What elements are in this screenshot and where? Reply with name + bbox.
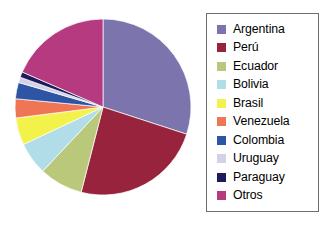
legend-item[interactable]: Uruguay [207,150,318,168]
legend-item-label: Argentina [233,23,285,36]
chart-legend: ArgentinaPerúEcuadorBoliviaBrasilVenezue… [206,13,319,212]
legend-item[interactable]: Venezuela [207,113,318,131]
chart-legend-list: ArgentinaPerúEcuadorBoliviaBrasilVenezue… [207,20,318,205]
legend-item-label: Otros [233,189,263,202]
legend-swatch-icon [217,80,226,89]
legend-item-label: Brasil [233,97,263,110]
pie-chart-svg [14,18,192,196]
legend-item-label: Bolivia [233,78,269,91]
legend-item[interactable]: Paraguay [207,168,318,186]
legend-item[interactable]: Perú [207,39,318,57]
pie-chart-figure: ArgentinaPerúEcuadorBoliviaBrasilVenezue… [0,0,330,225]
legend-swatch-icon [217,136,226,145]
legend-swatch-icon [217,43,226,52]
legend-swatch-icon [217,62,226,71]
legend-item[interactable]: Brasil [207,94,318,112]
pie-chart-plot-area [14,18,192,196]
legend-item[interactable]: Argentina [207,20,318,38]
legend-swatch-icon [217,173,226,182]
pie-slice-group [15,19,191,195]
legend-item-label: Ecuador [233,60,278,73]
legend-item-label: Venezuela [233,115,290,128]
legend-swatch-icon [217,25,226,34]
legend-item-label: Paraguay [233,171,285,184]
legend-item[interactable]: Ecuador [207,57,318,75]
legend-item[interactable]: Otros [207,187,318,205]
legend-swatch-icon [217,191,226,200]
legend-item-label: Perú [233,41,259,54]
legend-item-label: Colombia [233,134,284,147]
legend-item[interactable]: Bolivia [207,76,318,94]
legend-item-label: Uruguay [233,152,279,165]
legend-swatch-icon [217,117,226,126]
legend-swatch-icon [217,99,226,108]
legend-item[interactable]: Colombia [207,131,318,149]
legend-swatch-icon [217,154,226,163]
